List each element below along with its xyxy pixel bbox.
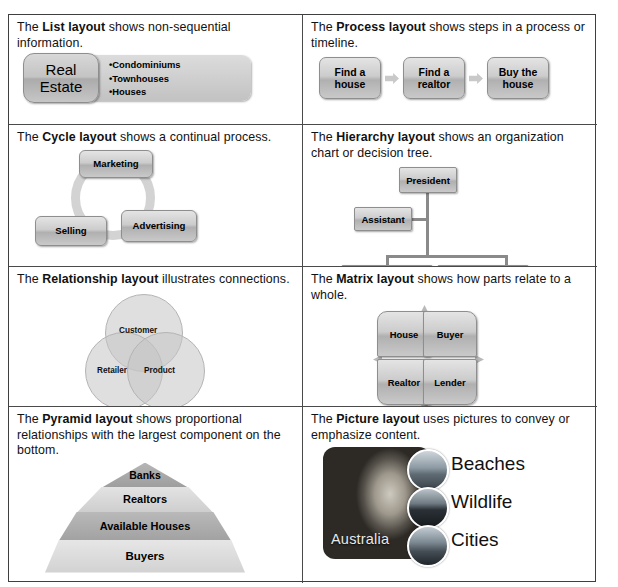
cycle-node-advertising: Advertising: [121, 210, 197, 242]
process-step-3-line2: house: [503, 78, 534, 91]
cell-process-layout: The Process layout shows steps in a proc…: [303, 15, 597, 125]
pyramid-tier-buyers: Buyers: [45, 540, 245, 573]
cell-picture-layout: The Picture layout uses pictures to conv…: [303, 407, 597, 583]
pyramid-caption-prefix: The: [17, 412, 42, 426]
pyramid-tier-realtors: Realtors: [45, 487, 245, 513]
pyramid-graphic: Banks Realtors Available Houses Buyers: [17, 461, 294, 577]
list-graphic: •Condominiums •Townhouses •Houses Real E…: [17, 53, 294, 105]
hierarchy-node-president: President: [399, 167, 457, 193]
pyramid-caption-bold: Pyramid layout: [42, 412, 132, 426]
list-item-label: Houses: [112, 86, 146, 97]
matrix-caption-prefix: The: [311, 272, 336, 286]
cycle-caption-suffix: shows a continual process.: [116, 130, 271, 144]
venn-label-customer: Customer: [119, 326, 157, 335]
matrix-quadrant-buyer: Buyer: [423, 311, 477, 357]
pyramid-caption: The Pyramid layout shows proportional re…: [17, 412, 294, 459]
hierarchy-caption: The Hierarchy layout shows an organizati…: [311, 130, 589, 161]
hierarchy-crossbar: [386, 255, 508, 258]
list-item: •Townhouses: [109, 72, 181, 86]
cell-matrix-layout: The Matrix layout shows how parts relate…: [303, 267, 597, 407]
cell-pyramid-layout: The Pyramid layout shows proportional re…: [9, 407, 303, 583]
cycle-caption-prefix: The: [17, 130, 42, 144]
list-item-label: Condominiums: [112, 59, 180, 70]
thumbnail-wildlife: [407, 487, 449, 529]
process-step-1-line2: house: [335, 78, 366, 91]
cell-relationship-layout: The Relationship layout illustrates conn…: [9, 267, 303, 407]
relationship-caption: The Relationship layout illustrates conn…: [17, 272, 294, 288]
hierarchy-caption-prefix: The: [311, 130, 336, 144]
list-item-label: Townhouses: [112, 73, 169, 84]
cell-list-layout: The List layout shows non-sequential inf…: [9, 15, 303, 125]
matrix-graphic: House Buyer Realtor Lender: [311, 305, 589, 407]
pyramid-tier-banks: Banks: [45, 463, 245, 488]
venn-label-retailer: Retailer: [97, 366, 127, 375]
process-graphic: Find a house Find a realtor Buy the hous…: [311, 53, 589, 105]
process-step-2-line1: Find a: [419, 66, 450, 79]
thumbnail-cities: [407, 525, 449, 567]
process-arrow-icon: [385, 73, 399, 84]
cell-hierarchy-layout: The Hierarchy layout shows an organizati…: [303, 125, 597, 267]
relationship-caption-prefix: The: [17, 272, 42, 286]
cycle-node-marketing: Marketing: [79, 150, 153, 178]
hierarchy-stem: [426, 191, 429, 257]
hierarchy-graphic: President Assistant VP: Sales VP: Financ…: [311, 163, 589, 263]
relationship-caption-suffix: illustrates connections.: [158, 272, 289, 286]
list-caption-bold: List layout: [42, 20, 105, 34]
process-step-3-line1: Buy the: [499, 66, 538, 79]
process-step-1: Find a house: [319, 57, 381, 99]
process-caption: The Process layout shows steps in a proc…: [311, 20, 589, 51]
picture-graphic: Australia Beaches Wildlife Cities: [311, 445, 589, 567]
matrix-caption-bold: Matrix layout: [336, 272, 414, 286]
list-bullet-group: •Condominiums •Townhouses •Houses: [109, 58, 181, 99]
pyramid-tier-available-houses: Available Houses: [45, 512, 245, 541]
picture-label-beaches: Beaches: [451, 453, 525, 475]
list-key-line2: Estate: [40, 78, 83, 95]
list-key-line1: Real: [46, 61, 77, 78]
clipped-top-text: [60, 0, 360, 6]
relationship-graphic: Customer Retailer Product: [17, 290, 294, 398]
smartart-layouts-table: The List layout shows non-sequential inf…: [8, 14, 596, 582]
matrix-caption: The Matrix layout shows how parts relate…: [311, 272, 589, 303]
list-item: •Houses: [109, 85, 181, 99]
process-step-2-line2: realtor: [418, 78, 451, 91]
process-step-1-line1: Find a: [335, 66, 366, 79]
picture-label-cities: Cities: [451, 529, 499, 551]
list-caption-prefix: The: [17, 20, 42, 34]
cycle-graphic: Marketing Selling Advertising: [17, 148, 294, 256]
photo-caption-australia: Australia: [331, 531, 389, 547]
list-item: •Condominiums: [109, 58, 181, 72]
picture-caption-bold: Picture layout: [336, 412, 419, 426]
list-caption: The List layout shows non-sequential inf…: [17, 20, 294, 51]
process-caption-prefix: The: [311, 20, 336, 34]
venn-label-product: Product: [144, 366, 175, 375]
hierarchy-node-assistant: Assistant: [354, 207, 412, 231]
cell-cycle-layout: The Cycle layout shows a continual proce…: [9, 125, 303, 267]
hierarchy-caption-bold: Hierarchy layout: [336, 130, 435, 144]
cycle-caption-bold: Cycle layout: [42, 130, 116, 144]
picture-label-wildlife: Wildlife: [451, 491, 512, 513]
cycle-node-selling: Selling: [35, 216, 107, 246]
list-key-box: Real Estate: [23, 53, 99, 103]
matrix-quadrant-lender: Lender: [423, 359, 477, 405]
picture-caption: The Picture layout uses pictures to conv…: [311, 412, 589, 443]
process-step-3: Buy the house: [487, 57, 549, 99]
cycle-caption: The Cycle layout shows a continual proce…: [17, 130, 294, 146]
relationship-caption-bold: Relationship layout: [42, 272, 158, 286]
process-arrow-icon: [469, 73, 483, 84]
pyramid-shape: Banks Realtors Available Houses Buyers: [45, 463, 245, 575]
process-caption-bold: Process layout: [336, 20, 426, 34]
process-step-2: Find a realtor: [403, 57, 465, 99]
thumbnail-beaches: [407, 449, 449, 491]
picture-caption-prefix: The: [311, 412, 336, 426]
